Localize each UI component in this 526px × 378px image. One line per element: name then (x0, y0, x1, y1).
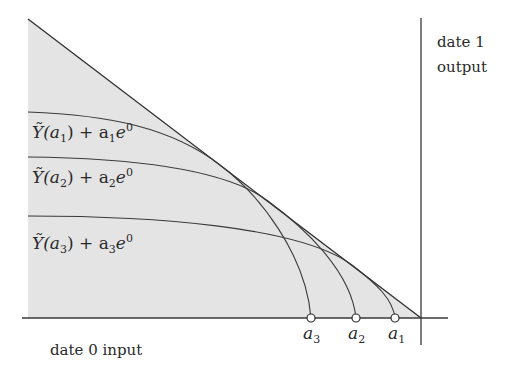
point-a2-label: a2 (348, 323, 365, 346)
y-axis-label-line2: output (437, 58, 487, 76)
point-a3-label: a3 (303, 323, 320, 346)
point-a1-label: a1 (388, 323, 405, 346)
point-a3-marker (307, 314, 315, 322)
y-axis-label-line1: date 1 (437, 33, 485, 51)
curve-a1-label: Ỹ(a1) + a1e0 (32, 121, 133, 145)
diagram: a3 a2 a1 Ỹ(a1) + a1e0 Ỹ(a2) + a2e0 Ỹ(a3)… (0, 0, 526, 378)
point-a2-marker (352, 314, 360, 322)
curve-a2-label: Ỹ(a2) + a2e0 (32, 166, 133, 190)
point-a1-marker (391, 314, 399, 322)
curve-a3-label: Ỹ(a3) + a3e0 (32, 232, 133, 256)
x-axis-label: date 0 input (50, 341, 142, 359)
